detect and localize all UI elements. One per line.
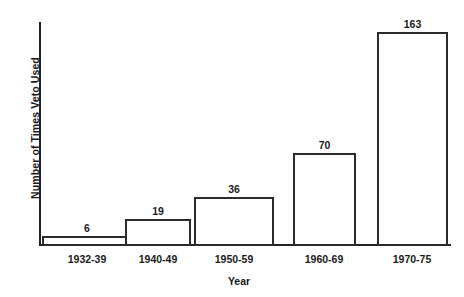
bar-value-label: 163: [377, 18, 448, 30]
bar[interactable]: [125, 219, 191, 246]
bar[interactable]: [42, 236, 132, 246]
plot-area: 6193670163: [0, 0, 464, 246]
bar-chart: Number of Times Veto Used 6193670163 193…: [0, 0, 464, 297]
bar-group: 19: [125, 203, 191, 246]
x-axis-tick-label: 1960-69: [284, 253, 364, 265]
bar-group: 163: [377, 16, 448, 246]
bar-value-label: 70: [293, 139, 356, 151]
bar[interactable]: [194, 197, 274, 246]
x-axis-tick-label: 1950-59: [194, 253, 274, 265]
x-axis-tick-label: 1970-75: [372, 253, 452, 265]
bar-group: 6: [42, 220, 132, 246]
bar-value-label: 6: [42, 222, 132, 234]
x-axis-tick-label: 1940-49: [118, 253, 198, 265]
bar-group: 36: [194, 181, 274, 246]
bar-group: 70: [293, 137, 356, 246]
x-axis-title: Year: [199, 275, 279, 287]
bar-value-label: 19: [125, 205, 191, 217]
bar[interactable]: [377, 32, 448, 246]
bar-value-label: 36: [194, 183, 274, 195]
bar[interactable]: [293, 153, 356, 246]
x-axis-tick-label: 1932-39: [47, 253, 127, 265]
